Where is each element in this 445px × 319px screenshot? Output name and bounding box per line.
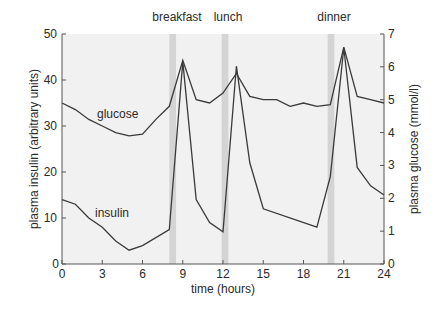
chart: 036912151821240102030405001234567 breakf… [0, 0, 445, 319]
y-tick-label-right: 5 [388, 93, 395, 107]
x-tick-label: 9 [179, 267, 186, 281]
y-tick-label-left: 50 [44, 27, 58, 41]
meal-label-lunch: lunch [214, 10, 243, 24]
y-tick-label-right: 0 [388, 257, 395, 271]
y-tick-label-right: 1 [388, 224, 395, 238]
x-axis-title: time (hours) [191, 282, 255, 296]
y-tick-label-right: 7 [388, 27, 395, 41]
x-tick-label: 12 [216, 267, 230, 281]
y-tick-label-right: 3 [388, 158, 395, 172]
x-tick-label: 21 [337, 267, 351, 281]
x-tick-label: 15 [257, 267, 271, 281]
meal-band-breakfast [169, 34, 176, 264]
y-tick-label-right: 2 [388, 191, 395, 205]
y-tick-label-left: 10 [44, 211, 58, 225]
y-tick-label-left: 20 [44, 165, 58, 179]
y-tick-label-left: 40 [44, 73, 58, 87]
x-tick-label: 3 [99, 267, 106, 281]
x-tick-label: 6 [139, 267, 146, 281]
meal-label-dinner: dinner [317, 10, 350, 24]
y-tick-label-right: 6 [388, 60, 395, 74]
y-axis-title-right: plasma glucose (mmol/l) [407, 84, 421, 214]
x-tick-label: 0 [59, 267, 66, 281]
y-tick-label-left: 30 [44, 119, 58, 133]
y-tick-label-right: 4 [388, 126, 395, 140]
y-axis-title-left: plasma insulin (arbitrary units) [27, 69, 41, 229]
x-tick-label: 18 [297, 267, 311, 281]
meal-label-breakfast: breakfast [152, 10, 202, 24]
series-label-glucose: glucose [97, 107, 139, 121]
series-label-insulin: insulin [95, 206, 129, 220]
y-tick-label-left: 0 [52, 257, 59, 271]
